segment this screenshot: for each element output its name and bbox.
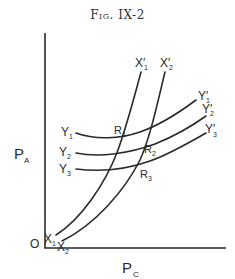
svg-text:2: 2 <box>152 150 156 157</box>
svg-text:P: P <box>14 145 24 162</box>
svg-text:1: 1 <box>52 240 56 247</box>
label-r3: R 3 <box>140 168 152 182</box>
svg-text:C: C <box>133 270 139 279</box>
label-y3-prime: Y′ 3 <box>205 122 217 138</box>
svg-text:2: 2 <box>67 153 71 160</box>
curve-y3 <box>76 133 206 170</box>
label-x1-prime: X′ 1 <box>135 56 148 71</box>
svg-text:3: 3 <box>213 131 217 138</box>
svg-text:R: R <box>140 168 148 180</box>
svg-text:1: 1 <box>144 64 148 71</box>
svg-text:Y: Y <box>59 145 67 159</box>
svg-text:R: R <box>114 124 122 136</box>
svg-text:2: 2 <box>169 64 173 71</box>
svg-text:P: P <box>122 259 132 276</box>
label-x2: X 2 <box>57 240 69 255</box>
curve-y1 <box>76 100 196 138</box>
svg-text:R: R <box>144 143 152 155</box>
label-y1: Y 1 <box>61 125 73 140</box>
curve-y2 <box>76 116 206 155</box>
svg-text:2: 2 <box>210 110 214 117</box>
origin-label: O <box>30 237 39 251</box>
diagram-canvas: O P A P C Y 1 Y 2 Y 3 Y′ 1 <box>0 0 235 279</box>
svg-text:1: 1 <box>69 133 73 140</box>
label-r1: R 1 <box>114 124 126 138</box>
label-x1: X 1 <box>44 232 56 247</box>
label-x2-prime: X′ 2 <box>160 56 173 71</box>
svg-text:A: A <box>24 156 30 165</box>
label-y3: Y 3 <box>59 162 71 177</box>
x-axis-label: P C <box>122 259 139 279</box>
figure-title: Fig. IX-2 <box>0 8 235 22</box>
svg-text:3: 3 <box>148 175 152 182</box>
svg-text:3: 3 <box>67 170 71 177</box>
svg-text:Y: Y <box>61 125 69 139</box>
label-y2-prime: Y′ 2 <box>202 102 214 117</box>
svg-text:X: X <box>44 232 52 246</box>
svg-text:2: 2 <box>65 248 69 255</box>
svg-text:1: 1 <box>122 131 126 138</box>
figure: Fig. IX-2 O P A P C Y 1 Y 2 Y <box>0 0 235 279</box>
svg-text:Y: Y <box>59 162 67 176</box>
svg-text:X: X <box>57 240 65 254</box>
label-y2: Y 2 <box>59 145 71 160</box>
y-axis-label: P A <box>14 145 30 165</box>
